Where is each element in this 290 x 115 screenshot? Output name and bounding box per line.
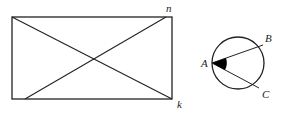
label-A: A	[200, 57, 208, 69]
geometry-figure: n k A B C	[0, 0, 290, 115]
rectangle-with-diagonals: n k	[12, 2, 183, 110]
label-n: n	[166, 2, 172, 14]
diagonal-2	[25, 17, 166, 99]
label-C: C	[262, 88, 270, 100]
diagonal-1	[12, 17, 172, 99]
label-B: B	[265, 32, 272, 44]
label-k: k	[177, 98, 183, 110]
angle-marker	[212, 58, 227, 70]
circle-with-inscribed-angle: A B C	[200, 32, 272, 100]
